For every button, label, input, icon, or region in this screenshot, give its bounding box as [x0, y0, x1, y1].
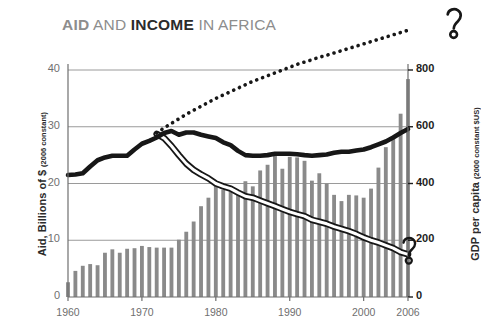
left-tick-label-20: 20 [30, 176, 60, 188]
bar-series-aid [66, 79, 410, 297]
left-tick-label-0: 0 [30, 289, 60, 301]
left-tick-label-40: 40 [30, 62, 60, 74]
x-tick-label-1970: 1970 [122, 306, 162, 318]
question-mark-annotations [404, 9, 461, 263]
x-tick-label-1960: 1960 [48, 306, 88, 318]
x-tick-label-1990: 1990 [270, 306, 310, 318]
question-mark-top-icon [448, 9, 461, 38]
right-tick-label-0: 0 [416, 289, 450, 301]
x-tick-label-2006: 2006 [388, 306, 428, 318]
left-tick-label-10: 10 [30, 232, 60, 244]
right-tick-label-200: 200 [416, 232, 450, 244]
x-tick-label-1980: 1980 [196, 306, 236, 318]
right-tick-label-600: 600 [416, 119, 450, 131]
x-tick-label-2000: 2000 [344, 306, 384, 318]
right-tick-label-400: 400 [416, 176, 450, 188]
right-tick-label-800: 800 [416, 62, 450, 74]
left-tick-label-30: 30 [30, 119, 60, 131]
